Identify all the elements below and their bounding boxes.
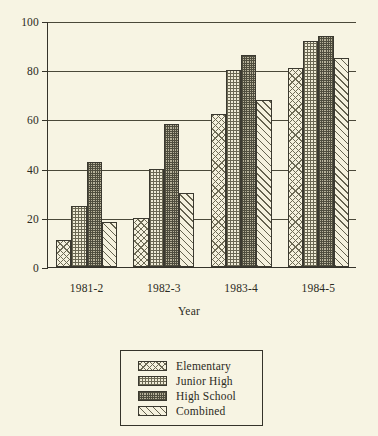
bar-junior-high-1981-2 — [71, 206, 86, 268]
legend-item-elementary: Elementary — [121, 358, 262, 373]
bar-junior-high-1982-3 — [149, 169, 164, 267]
bar-group — [211, 22, 272, 267]
legend-item-junior-high: Junior High — [121, 373, 262, 388]
y-axis-tick-label: 20 — [27, 213, 39, 225]
x-axis-tick-label: 1981-2 — [70, 282, 104, 294]
x-axis-tick-label: 1982-3 — [147, 282, 181, 294]
bar-elementary-1983-4 — [211, 114, 226, 267]
bar-combined-1981-2 — [102, 222, 117, 268]
y-axis-tick-label: 100 — [21, 16, 39, 28]
bar-high-school-1984-5 — [318, 36, 333, 267]
legend-item-combined: Combined — [121, 403, 262, 418]
y-axis-tick-label: 0 — [33, 262, 39, 274]
bar-combined-1984-5 — [334, 58, 349, 267]
legend-swatch-icon — [138, 406, 167, 416]
x-axis-tick-label: 1984-5 — [301, 282, 335, 294]
x-axis-tick-label: 1983-4 — [224, 282, 258, 294]
bar-elementary-1984-5 — [288, 68, 303, 267]
bar-group — [56, 22, 117, 267]
legend-label: Junior High — [176, 375, 233, 387]
plot-area: 020406080100 1981-21982-31983-41984-5 — [47, 22, 356, 268]
bar-elementary-1982-3 — [133, 218, 148, 267]
y-axis-tick-label: 80 — [27, 65, 39, 77]
legend-item-high-school: High School — [121, 388, 262, 403]
legend: ElementaryJunior HighHigh SchoolCombined — [120, 350, 263, 426]
legend-label: High School — [176, 390, 236, 402]
legend-label: Elementary — [176, 360, 231, 372]
y-axis-tick — [42, 268, 48, 269]
bar-high-school-1982-3 — [164, 124, 179, 267]
y-axis-tick-label: 40 — [27, 164, 39, 176]
bar-elementary-1981-2 — [56, 240, 71, 267]
legend-label: Combined — [176, 405, 226, 417]
legend-swatch-icon — [138, 391, 167, 401]
bar-group — [288, 22, 349, 267]
legend-swatch-icon — [138, 361, 167, 371]
bar-group — [133, 22, 194, 267]
bar-series-container — [48, 22, 356, 267]
bar-high-school-1981-2 — [87, 162, 102, 267]
x-axis-title: Year — [0, 305, 378, 317]
bar-chart-figure: 020406080100 1981-21982-31983-41984-5 Ye… — [0, 0, 378, 436]
bar-junior-high-1984-5 — [303, 41, 318, 267]
bar-high-school-1983-4 — [241, 55, 256, 267]
legend-swatch-icon — [138, 376, 167, 386]
bar-combined-1982-3 — [179, 193, 194, 267]
bar-junior-high-1983-4 — [226, 70, 241, 267]
bar-combined-1983-4 — [256, 100, 271, 267]
y-axis-tick-label: 60 — [27, 114, 39, 126]
